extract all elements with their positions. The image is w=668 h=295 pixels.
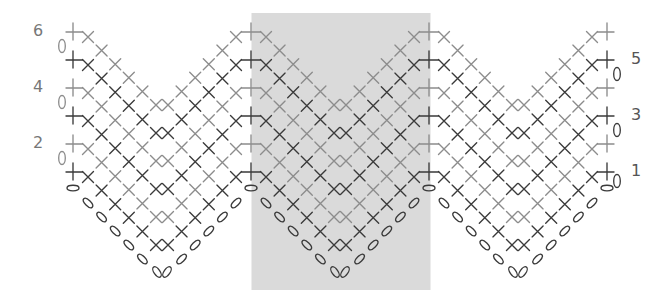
cross-stitch-symbol xyxy=(190,100,201,111)
cross-stitch-symbol xyxy=(203,59,214,70)
cross-stitch-symbol xyxy=(231,144,242,155)
cross-stitch-symbol xyxy=(587,32,598,43)
cross-stitch-symbol xyxy=(163,240,174,251)
plus-stitch-symbol xyxy=(598,107,615,124)
turning-chain-symbol xyxy=(59,40,66,53)
cross-stitch-symbol xyxy=(123,72,134,83)
cross-stitch-symbol xyxy=(546,212,557,223)
plus-stitch-symbol xyxy=(66,107,83,124)
cross-stitch-symbol xyxy=(96,101,107,112)
plus-stitch-symbol xyxy=(66,51,83,68)
row-number-label: 2 xyxy=(33,133,43,152)
cross-stitch-symbol xyxy=(519,212,530,223)
cross-stitch-symbol xyxy=(96,129,107,140)
cross-stitch-symbol xyxy=(123,184,134,195)
chain-stitch-oval xyxy=(136,253,148,265)
cross-stitch-symbol xyxy=(96,73,107,84)
cross-stitch-symbol xyxy=(519,100,530,111)
cross-stitch-symbol xyxy=(176,114,187,125)
cross-stitch-symbol xyxy=(466,171,477,182)
cross-stitch-symbol xyxy=(452,73,463,84)
chain-stitch-oval xyxy=(545,239,557,251)
cross-stitch-symbol xyxy=(532,86,543,97)
chain-stitch-oval xyxy=(465,225,477,237)
cross-stitch-symbol xyxy=(507,156,518,167)
cross-stitch-symbol xyxy=(546,100,557,111)
cross-stitch-symbol xyxy=(493,86,504,97)
chain-stitch-oval xyxy=(95,211,107,223)
cross-stitch-symbol xyxy=(493,142,504,153)
cross-stitch-symbol xyxy=(507,128,518,139)
plus-stitch-symbol xyxy=(66,79,83,96)
cross-stitch-symbol xyxy=(587,60,598,71)
cross-stitch-symbol xyxy=(519,240,530,251)
row-number-label: 1 xyxy=(631,161,641,180)
cross-stitch-symbol xyxy=(151,184,162,195)
cross-stitch-symbol xyxy=(573,45,584,56)
cross-stitch-symbol xyxy=(479,72,490,83)
cross-stitch-symbol xyxy=(151,128,162,139)
plus-stitch-symbol xyxy=(598,79,615,96)
cross-stitch-symbol xyxy=(466,59,477,70)
cross-stitch-symbol xyxy=(83,116,94,127)
chain-stitch-oval xyxy=(531,253,543,265)
cross-stitch-symbol xyxy=(452,101,463,112)
cross-stitch-symbol xyxy=(493,114,504,125)
chain-stitch-oval xyxy=(438,197,450,209)
cross-stitch-symbol xyxy=(559,115,570,126)
chain-stitch-oval xyxy=(109,225,121,237)
cross-stitch-symbol xyxy=(96,157,107,168)
cross-stitch-symbol xyxy=(163,212,174,223)
cross-stitch-symbol xyxy=(231,32,242,43)
cross-stitch-symbol xyxy=(137,170,148,181)
cross-stitch-symbol xyxy=(190,128,201,139)
cross-stitch-symbol xyxy=(532,142,543,153)
cross-stitch-symbol xyxy=(532,226,543,237)
chain-stitch-oval xyxy=(479,239,491,251)
cross-stitch-symbol xyxy=(546,184,557,195)
cross-stitch-symbol xyxy=(163,100,174,111)
cross-stitch-symbol xyxy=(217,45,228,56)
cross-stitch-symbol xyxy=(559,59,570,70)
cross-stitch-symbol xyxy=(231,116,242,127)
cross-stitch-symbol xyxy=(163,128,174,139)
cross-stitch-symbol xyxy=(587,144,598,155)
cross-stitch-symbol xyxy=(151,212,162,223)
cross-stitch-symbol xyxy=(532,198,543,209)
crochet-chart: 123456 xyxy=(0,0,668,295)
cross-stitch-symbol xyxy=(439,116,450,127)
chain-stitch-oval xyxy=(517,265,529,278)
cross-stitch-symbol xyxy=(137,198,148,209)
cross-stitch-symbol xyxy=(231,60,242,71)
cross-stitch-symbol xyxy=(507,240,518,251)
cross-stitch-symbol xyxy=(123,212,134,223)
chain-stitch-oval xyxy=(82,197,94,209)
cross-stitch-symbol xyxy=(587,116,598,127)
plus-stitch-symbol xyxy=(66,23,83,40)
cross-stitch-symbol xyxy=(83,32,94,43)
chain-stitch-oval xyxy=(492,253,504,265)
cross-stitch-symbol xyxy=(123,156,134,167)
cross-stitch-symbol xyxy=(203,143,214,154)
cross-stitch-symbol xyxy=(110,87,121,98)
cross-stitch-symbol xyxy=(559,87,570,98)
cross-stitch-symbol xyxy=(479,184,490,195)
cross-stitch-symbol xyxy=(217,101,228,112)
chain-stitch-oval xyxy=(559,225,571,237)
cross-stitch-symbol xyxy=(532,170,543,181)
cross-stitch-symbol xyxy=(452,45,463,56)
cross-stitch-symbol xyxy=(203,171,214,182)
cross-stitch-symbol xyxy=(217,157,228,168)
chain-stitch-oval xyxy=(216,211,228,223)
chain-stitch-oval xyxy=(586,197,598,209)
cross-stitch-symbol xyxy=(519,128,530,139)
cross-stitch-symbol xyxy=(217,73,228,84)
plus-stitch-symbol xyxy=(598,51,615,68)
cross-stitch-symbol xyxy=(587,172,598,183)
cross-stitch-symbol xyxy=(137,86,148,97)
cross-stitch-symbol xyxy=(110,59,121,70)
cross-stitch-symbol xyxy=(83,88,94,99)
chain-stitch-oval xyxy=(230,197,242,209)
chain-stitch-oval xyxy=(151,265,163,278)
chain-stitch-oval xyxy=(175,253,187,265)
